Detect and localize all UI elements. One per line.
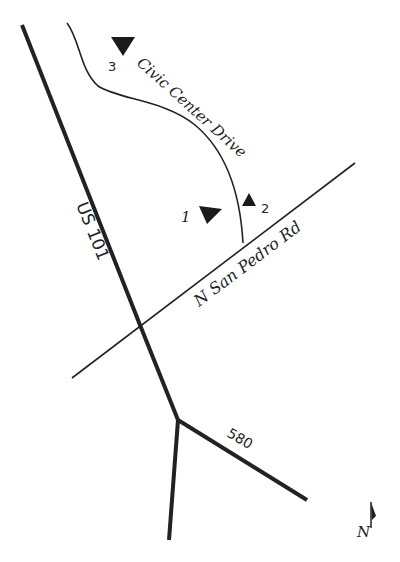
location-marker-3[interactable]: 3 (108, 37, 135, 74)
marker-down-triangle-icon (111, 37, 135, 56)
san-pedro-road-label: N San Pedro Rd (189, 217, 305, 311)
marker-label: 2 (261, 201, 269, 216)
marker-label: 3 (108, 59, 116, 74)
civic-center-drive-label: Civic Center Drive (133, 54, 250, 162)
i-580-label: 580 (225, 425, 256, 452)
location-marker-2[interactable]: 2 (242, 193, 269, 216)
location-map: US 101 Civic Center Drive N San Pedro Rd… (0, 0, 400, 562)
south-branch-road (169, 420, 178, 540)
north-label: N (356, 523, 371, 541)
north-arrow: N (356, 502, 376, 541)
us-101-label: US 101 (72, 199, 113, 263)
marker-up-triangle-icon (242, 193, 256, 206)
location-marker-1[interactable]: 1 (181, 206, 222, 226)
marker-down-triangle-icon (199, 206, 222, 224)
san-pedro-road (72, 163, 355, 378)
marker-label: 1 (181, 208, 191, 226)
